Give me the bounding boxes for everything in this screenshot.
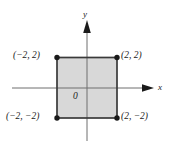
vertex-dot-bottom-left [54,115,59,120]
vertex-label-bottom-left: (−2, −2) [6,112,39,122]
y-axis-label: y [83,10,87,19]
coordinate-plane-figure: (−2, 2) (2, 2) (−2, −2) (2, −2) x y 0 [0,0,169,143]
vertex-label-bottom-right: (2, −2) [121,112,148,122]
vertex-label-top-left: (−2, 2) [13,51,40,61]
y-axis-arrowhead [83,20,91,33]
origin-label: 0 [73,92,78,102]
vertex-dot-top-left [54,55,59,60]
x-axis-label: x [158,83,162,92]
vertex-dot-top-right [114,55,119,60]
coordinate-plane-svg [0,0,169,143]
vertex-dot-bottom-right [114,115,119,120]
x-axis-arrowhead [142,84,154,92]
vertex-label-top-right: (2, 2) [121,51,142,61]
